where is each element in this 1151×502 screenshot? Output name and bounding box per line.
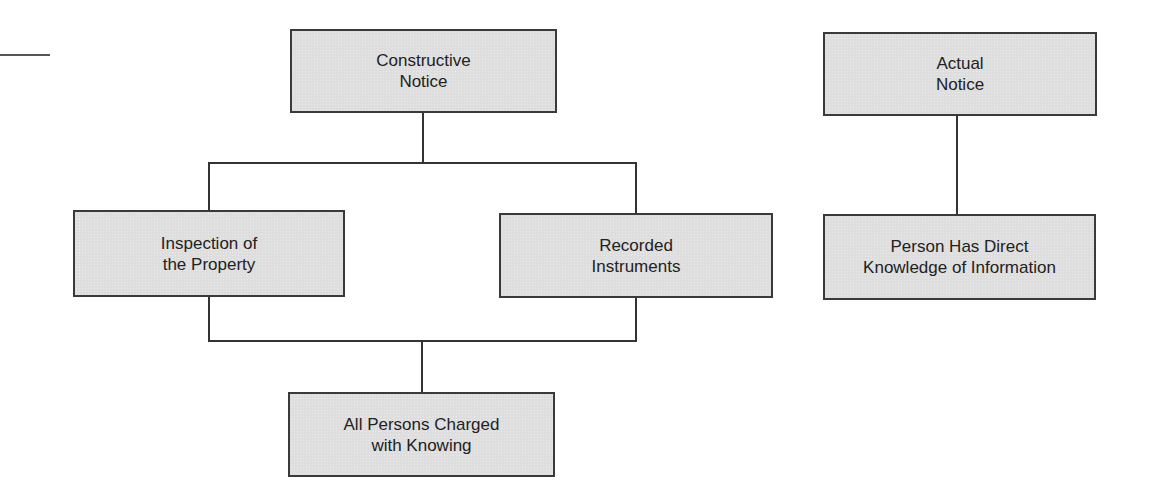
- node-label: Actual Notice: [936, 53, 984, 95]
- node-recorded-instruments: Recorded Instruments: [499, 213, 773, 298]
- connector-recorded-down: [635, 298, 637, 342]
- connector-to-inspection: [208, 162, 210, 210]
- connector-constructive-down: [422, 113, 424, 163]
- node-constructive-notice: Constructive Notice: [290, 29, 557, 113]
- page-rule-divider: [0, 54, 50, 56]
- node-label: Constructive Notice: [376, 50, 470, 92]
- node-label: All Persons Charged with Knowing: [344, 414, 500, 456]
- node-label: Recorded Instruments: [592, 235, 681, 277]
- connector-to-recorded: [635, 162, 637, 213]
- node-label: Person Has Direct Knowledge of Informati…: [863, 236, 1056, 278]
- node-inspection-of-property: Inspection of the Property: [73, 210, 345, 297]
- connector-to-all-persons: [421, 340, 423, 392]
- node-actual-notice: Actual Notice: [823, 32, 1097, 116]
- node-direct-knowledge: Person Has Direct Knowledge of Informati…: [823, 214, 1096, 300]
- node-label: Inspection of the Property: [161, 233, 257, 275]
- node-all-persons-charged: All Persons Charged with Knowing: [288, 392, 555, 477]
- connector-branch-top: [208, 162, 637, 164]
- connector-actual-down: [956, 116, 958, 214]
- connector-inspection-down: [208, 297, 210, 342]
